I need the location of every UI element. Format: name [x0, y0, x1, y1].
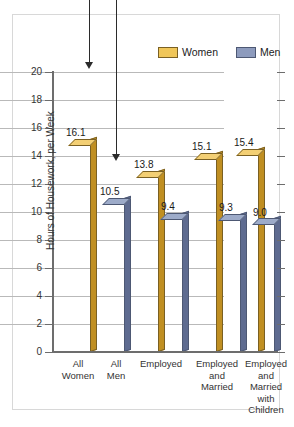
- bar-employed-married-women: [194, 160, 216, 352]
- category-line: Married: [238, 381, 294, 393]
- bar-side: [274, 216, 281, 352]
- ytick-label-14: 14: [18, 151, 42, 161]
- legend-label-men: Men: [260, 46, 280, 58]
- tick-right-12: [277, 184, 285, 185]
- ytick-label-10: 10: [18, 207, 42, 217]
- legend-label-women: Women: [182, 46, 218, 58]
- legend: Women Men: [158, 46, 280, 58]
- bar-employed-married-children-men: [252, 225, 274, 352]
- tick-right-14: [277, 156, 285, 157]
- legend-item-men: Men: [236, 46, 280, 58]
- bar-employed-men: [160, 220, 182, 352]
- ytick-label-2: 2: [18, 319, 42, 329]
- legend-swatch-men-icon: [236, 47, 256, 58]
- bar-value-label: 10.5: [100, 187, 119, 197]
- tick-left-20: [45, 72, 53, 73]
- tick-right-6: [277, 268, 285, 269]
- callout-arrow-women-line: [89, 0, 90, 63]
- category-line: with: [238, 393, 294, 405]
- bar-all-women-women: [68, 146, 90, 352]
- x-axis-line: [52, 351, 278, 353]
- bar-employed-women: [136, 178, 158, 352]
- category-label-employed-married: Employed and Married: [189, 358, 245, 393]
- ytick-label-8: 8: [18, 235, 42, 245]
- category-line: Employed: [133, 358, 189, 370]
- callout-arrow-men-head-icon: [112, 154, 120, 161]
- legend-item-women: Women: [158, 46, 218, 58]
- y-axis-title: Hours of Housework, per Week: [45, 101, 56, 261]
- ytick-label-16: 16: [18, 123, 42, 133]
- legend-swatch-women-icon: [158, 47, 178, 58]
- bar-all-men-men: [102, 205, 124, 352]
- category-line: Married: [189, 381, 245, 393]
- ytick-label-6: 6: [18, 263, 42, 273]
- category-line: Employed: [238, 358, 294, 370]
- category-line: All: [99, 358, 133, 370]
- tick-right-0: [277, 352, 285, 353]
- ytick-label-4: 4: [18, 291, 42, 301]
- bar-value-label: 15.1: [192, 142, 211, 152]
- callout-arrow-men-line: [116, 0, 117, 155]
- category-label-employed-married-children: Employed and Married with Children: [238, 358, 294, 416]
- tick-right-16: [277, 128, 285, 129]
- tick-right-4: [277, 296, 285, 297]
- ytick-label-18: 18: [18, 95, 42, 105]
- bar-value-label: 15.4: [234, 138, 253, 148]
- category-line: and: [189, 370, 245, 382]
- category-line: and: [238, 370, 294, 382]
- tick-left-2: [45, 324, 53, 325]
- ytick-label-0: 0: [18, 347, 42, 357]
- category-line: Children: [238, 404, 294, 416]
- bar-side: [90, 137, 97, 352]
- bar-side: [124, 196, 131, 352]
- tick-left-6: [45, 268, 53, 269]
- category-line: Men: [99, 370, 133, 382]
- category-line: Women: [57, 370, 99, 382]
- bar-value-label: 9.0: [253, 208, 267, 218]
- bar-value-label: 16.1: [66, 128, 85, 138]
- category-line: Employed: [189, 358, 245, 370]
- bar-value-label: 9.4: [161, 202, 175, 212]
- category-line: All: [57, 358, 99, 370]
- ytick-label-20: 20: [18, 67, 42, 77]
- ytick-label-12: 12: [18, 179, 42, 189]
- tick-right-2: [277, 324, 285, 325]
- bar-side: [182, 211, 189, 352]
- callout-arrow-women-head-icon: [85, 62, 93, 69]
- chart-page: 16.1 10.5 13.8 9.4 15.1 9.3 15.4 9.0: [0, 0, 294, 427]
- tick-right-10: [277, 212, 285, 213]
- tick-right-8: [277, 240, 285, 241]
- tick-left-0: [45, 352, 53, 353]
- tick-right-20: [277, 72, 285, 73]
- tick-left-4: [45, 296, 53, 297]
- category-label-all-men: All Men: [99, 358, 133, 381]
- bar-value-label: 9.3: [219, 203, 233, 213]
- bar-value-label: 13.8: [134, 160, 153, 170]
- category-label-employed: Employed: [133, 358, 189, 370]
- tick-right-18: [277, 100, 285, 101]
- category-label-all-women: All Women: [57, 358, 99, 381]
